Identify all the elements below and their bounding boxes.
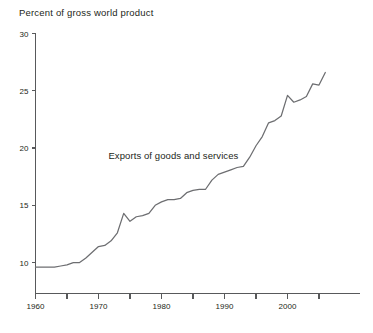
x-tick-label: 1970 — [90, 302, 108, 311]
y-tick-label: 20 — [20, 144, 29, 153]
y-axis-tick-labels: 1015202530 — [20, 30, 29, 268]
data-series-group — [36, 72, 326, 267]
y-tick-label: 15 — [20, 201, 29, 210]
y-tick-label: 30 — [20, 30, 29, 39]
series-annotation-label: Exports of goods and services — [108, 150, 238, 161]
x-tick-label: 1960 — [27, 302, 45, 311]
x-axis-tick-labels: 19601970198019902000 — [27, 302, 297, 311]
x-axis: 19601970198019902000 — [27, 294, 360, 311]
chart-plot-area: 1015202530 19601970198019902000 — [0, 0, 373, 333]
x-tick-label: 2000 — [279, 302, 297, 311]
data-line — [36, 72, 326, 267]
y-axis: 1015202530 — [20, 30, 36, 294]
x-tick-label: 1990 — [216, 302, 234, 311]
chart-figure: Percent of gross world product 101520253… — [0, 0, 373, 333]
y-tick-label: 25 — [20, 87, 29, 96]
y-tick-label: 10 — [20, 259, 29, 268]
x-tick-label: 1980 — [153, 302, 171, 311]
x-axis-ticks — [36, 294, 320, 299]
